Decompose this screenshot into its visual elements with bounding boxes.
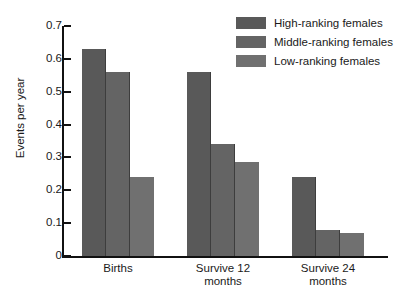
x-axis-category-label: Births (58, 262, 178, 275)
legend-swatch (236, 55, 266, 67)
x-axis-category-label: Survive 12months (163, 262, 283, 288)
legend-swatch (236, 36, 266, 48)
legend: High-ranking femalesMiddle-ranking femal… (236, 14, 393, 71)
y-tick-label: 0.2 (18, 184, 62, 196)
category-label-line: Survive 24 (268, 262, 388, 275)
category-label-line: Survive 12 (163, 262, 283, 275)
legend-item: High-ranking females (236, 14, 393, 31)
y-axis-label: Events per year (14, 56, 26, 180)
legend-label: High-ranking females (274, 17, 383, 29)
category-label-line: months (268, 275, 388, 288)
bar (187, 72, 211, 256)
category-label-line: Births (58, 262, 178, 275)
x-axis-category-label: Survive 24months (268, 262, 388, 288)
bar (82, 49, 106, 256)
legend-label: Middle-ranking females (274, 36, 393, 48)
legend-label: Low-ranking females (274, 55, 380, 67)
bar-chart: 0.70.60.50.40.30.20.10 Events per year B… (0, 0, 408, 296)
bar-group (82, 26, 154, 256)
category-label-line: months (163, 275, 283, 288)
bar (130, 177, 154, 256)
y-tick-label: 0.7 (18, 20, 62, 32)
legend-item: Low-ranking females (236, 52, 393, 69)
bar (211, 144, 235, 256)
bar (340, 233, 364, 256)
legend-swatch (236, 17, 266, 29)
bar (292, 177, 316, 256)
bar (235, 162, 259, 256)
bar (106, 72, 130, 256)
x-axis-line (62, 256, 388, 258)
legend-item: Middle-ranking females (236, 33, 393, 50)
y-tick-label: 0 (18, 250, 62, 262)
y-tick-label: 0.1 (18, 217, 62, 229)
bar (316, 230, 340, 256)
